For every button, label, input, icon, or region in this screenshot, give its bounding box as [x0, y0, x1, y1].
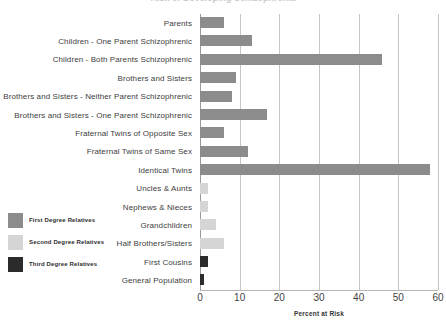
bar-chart: Risk of Developing Schizophrenia Parents…	[0, 0, 446, 325]
category-label-row: Uncles & Aunts	[0, 180, 196, 198]
category-label-row: Parents	[0, 14, 196, 32]
legend-label: Third Degree Relatives	[29, 261, 97, 267]
x-axis-line	[200, 290, 438, 291]
legend-item[interactable]: Second Degree Relatives	[8, 231, 128, 253]
category-label: Brothers and Sisters - Neither Parent Sc…	[3, 92, 192, 101]
bar-row	[200, 253, 438, 271]
bar-row	[200, 216, 438, 234]
category-label-row: Fraternal Twins of Same Sex	[0, 143, 196, 161]
bar	[200, 146, 248, 157]
chart-title-clipped: Risk of Developing Schizophrenia	[0, 0, 446, 9]
legend-swatch-icon	[8, 213, 23, 228]
x-tick-label-40: 40	[353, 292, 364, 303]
bar	[200, 35, 252, 46]
x-tick-label-20: 20	[274, 292, 285, 303]
bar	[200, 238, 224, 249]
bar-row	[200, 143, 438, 161]
bar	[200, 256, 208, 267]
category-label-row: Brothers and Sisters	[0, 69, 196, 87]
x-axis-tick-labels: 0102030405060	[200, 292, 438, 306]
bar	[200, 91, 232, 102]
category-label: Grandchildren	[140, 221, 192, 230]
legend-swatch-icon	[8, 235, 23, 250]
category-label-row: Brothers and Sisters - Neither Parent Sc…	[0, 88, 196, 106]
plot-area	[200, 14, 438, 290]
bar-row	[200, 51, 438, 69]
x-tick-label-50: 50	[393, 292, 404, 303]
category-label: Identical Twins	[138, 166, 192, 175]
bar-row	[200, 88, 438, 106]
bar-row	[200, 106, 438, 124]
bar	[200, 54, 382, 65]
legend-item[interactable]: First Degree Relatives	[8, 209, 128, 231]
legend-label: Second Degree Relatives	[29, 239, 104, 245]
x-tick-label-30: 30	[313, 292, 324, 303]
category-label: Uncles & Aunts	[136, 184, 192, 193]
bar	[200, 183, 208, 194]
x-tick-label-60: 60	[432, 292, 443, 303]
bar-row	[200, 161, 438, 179]
category-label: Children - One Parent Schizophrenic	[58, 37, 192, 46]
bar-row	[200, 69, 438, 87]
bar	[200, 219, 216, 230]
bar-row	[200, 235, 438, 253]
chart-legend: First Degree RelativesSecond Degree Rela…	[8, 209, 128, 275]
category-label: First Cousins	[144, 258, 192, 267]
x-axis-title: Percent at Risk	[200, 310, 438, 317]
category-label-row: Identical Twins	[0, 161, 196, 179]
category-label-row: Children - Both Parents Schizophrenic	[0, 51, 196, 69]
bar-row	[200, 180, 438, 198]
category-label-row: Children - One Parent Schizophrenic	[0, 32, 196, 50]
bar	[200, 72, 236, 83]
bar	[200, 201, 208, 212]
category-label-row: Brothers and Sisters - One Parent Schizo…	[0, 106, 196, 124]
chart-title: Risk of Developing Schizophrenia	[0, 0, 446, 3]
legend-item[interactable]: Third Degree Relatives	[8, 253, 128, 275]
bar-row	[200, 124, 438, 142]
category-label: Fraternal Twins of Same Sex	[87, 147, 192, 156]
category-label: Nephews & Nieces	[123, 203, 192, 212]
legend-swatch-icon	[8, 257, 23, 272]
bar-rows	[200, 14, 438, 290]
bar-row	[200, 198, 438, 216]
category-label: Fraternal Twins of Opposite Sex	[75, 129, 192, 138]
category-label: Parents	[164, 19, 192, 28]
bar-row	[200, 14, 438, 32]
gridline-60	[438, 14, 439, 290]
category-label: General Population	[122, 276, 192, 285]
x-tick-label-10: 10	[234, 292, 245, 303]
category-label: Children - Both Parents Schizophrenic	[53, 55, 192, 64]
bar	[200, 109, 267, 120]
x-tick-label-0: 0	[197, 292, 203, 303]
bar	[200, 274, 204, 285]
bar-row	[200, 32, 438, 50]
bar	[200, 17, 224, 28]
category-label: Brothers and Sisters - One Parent Schizo…	[14, 111, 192, 120]
bar	[200, 127, 224, 138]
category-label-row: Fraternal Twins of Opposite Sex	[0, 124, 196, 142]
legend-label: First Degree Relatives	[29, 217, 95, 223]
category-label: Brothers and Sisters	[118, 74, 192, 83]
bar-row	[200, 271, 438, 289]
bar	[200, 164, 430, 175]
